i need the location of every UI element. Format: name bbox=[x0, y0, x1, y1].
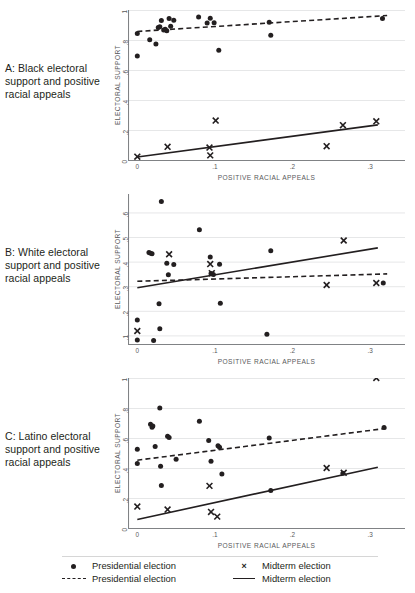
panel-b: B: White electoral support and positive … bbox=[0, 188, 415, 370]
legend-divider bbox=[62, 556, 378, 557]
y-tick-label: .2 bbox=[122, 498, 129, 503]
data-point-x bbox=[134, 504, 140, 510]
solid-line-icon bbox=[232, 572, 258, 585]
data-point-dot bbox=[174, 457, 179, 462]
x-tick-label: .2 bbox=[290, 163, 295, 170]
data-point-x bbox=[373, 280, 379, 286]
x-tick-label: .1 bbox=[212, 531, 217, 538]
y-tick-label: .2 bbox=[122, 130, 129, 135]
data-point-x bbox=[208, 509, 214, 515]
panel-b-plot: .1.2.3.4.5.60.1.2.3 bbox=[128, 194, 405, 344]
x-glyph: × bbox=[240, 562, 248, 570]
panel-a-plot: 0.2.4.6.810.1.2.3 bbox=[128, 10, 405, 160]
data-point-dot bbox=[147, 37, 152, 42]
data-point-x bbox=[341, 238, 347, 244]
data-point-dot bbox=[166, 272, 171, 277]
data-point-dot bbox=[197, 419, 202, 424]
x-tick-label: 0 bbox=[136, 163, 140, 170]
data-point-x bbox=[134, 328, 140, 334]
plot-canvas bbox=[128, 378, 405, 529]
y-tick-label: .6 bbox=[122, 212, 129, 217]
x-tick-label: .1 bbox=[212, 347, 217, 354]
panel-a-ylabel-wrap: ELECTORAL SUPPORT bbox=[112, 10, 124, 160]
data-point-x bbox=[165, 507, 171, 513]
data-point-x bbox=[214, 514, 220, 520]
data-point-dot bbox=[218, 301, 223, 306]
data-point-dot bbox=[264, 332, 269, 337]
y-tick-label: .8 bbox=[122, 40, 129, 45]
legend-label: Midterm election bbox=[262, 572, 331, 585]
y-tick-label: .5 bbox=[122, 237, 129, 242]
data-point-dot bbox=[219, 472, 224, 477]
legend-label: Presidential election bbox=[92, 572, 176, 585]
data-point-dot bbox=[164, 261, 169, 266]
data-point-x bbox=[213, 118, 219, 124]
data-point-x bbox=[373, 118, 379, 124]
dot-marker-icon bbox=[62, 559, 88, 572]
y-tick-label: .6 bbox=[122, 70, 129, 75]
x-tick-label: .3 bbox=[367, 163, 372, 170]
data-point-dot bbox=[267, 436, 272, 441]
y-tick-label: .2 bbox=[122, 311, 129, 316]
data-point-dot bbox=[135, 447, 140, 452]
data-point-dot bbox=[158, 464, 163, 469]
x-tick-label: .1 bbox=[212, 163, 217, 170]
data-point-dot bbox=[157, 326, 162, 331]
panel-c-caption: C: Latino electoral support and positive… bbox=[5, 430, 103, 470]
x-tick-label: .3 bbox=[367, 531, 372, 538]
panel-c: C: Latino electoral support and positive… bbox=[0, 372, 415, 554]
data-point-x bbox=[340, 122, 346, 128]
data-point-dot bbox=[381, 281, 386, 286]
y-tick-label: .4 bbox=[122, 468, 129, 473]
data-point-dot bbox=[135, 317, 140, 322]
legend-label: Presidential election bbox=[92, 559, 176, 572]
data-point-x bbox=[324, 143, 330, 149]
data-point-x bbox=[207, 483, 213, 489]
data-point-dot bbox=[205, 21, 210, 26]
data-point-dot bbox=[135, 338, 140, 343]
y-tick-label: .8 bbox=[122, 408, 129, 413]
trend-line-dashed bbox=[137, 274, 387, 281]
data-point-dot bbox=[196, 15, 201, 20]
data-point-dot bbox=[150, 251, 155, 256]
legend-label: Midterm election bbox=[262, 559, 331, 572]
y-tick-label: .4 bbox=[122, 262, 129, 267]
data-point-dot bbox=[268, 248, 273, 253]
y-tick-label: 0 bbox=[122, 528, 129, 532]
panel-b-xlabel: POSITIVE RACIAL APPEALS bbox=[128, 358, 405, 365]
data-point-dot bbox=[157, 24, 162, 29]
data-point-dot bbox=[212, 20, 217, 25]
data-point-dot bbox=[135, 461, 140, 466]
plot-canvas bbox=[128, 10, 405, 161]
data-point-dot bbox=[159, 18, 164, 23]
x-marker-icon: × bbox=[232, 559, 258, 572]
panel-c-xlabel: POSITIVE RACIAL APPEALS bbox=[128, 542, 405, 549]
y-tick-label: .4 bbox=[122, 100, 129, 105]
data-point-x bbox=[165, 144, 171, 150]
trend-line-dashed bbox=[137, 428, 387, 460]
panel-a-ylabel: ELECTORAL SUPPORT bbox=[112, 10, 124, 160]
data-point-x bbox=[207, 152, 213, 158]
data-point-dot bbox=[206, 438, 211, 443]
trend-line-solid bbox=[137, 125, 378, 157]
data-point-dot bbox=[157, 406, 162, 411]
data-point-dot bbox=[268, 33, 273, 38]
data-point-dot bbox=[208, 254, 213, 259]
x-tick-label: 0 bbox=[136, 531, 140, 538]
data-point-dot bbox=[135, 54, 140, 59]
data-point-dot bbox=[197, 227, 202, 232]
data-point-dot bbox=[157, 301, 162, 306]
y-tick-label: .3 bbox=[122, 286, 129, 291]
data-point-dot bbox=[153, 444, 158, 449]
data-point-dot bbox=[167, 435, 172, 440]
trend-line-solid bbox=[137, 248, 378, 288]
data-point-dot bbox=[171, 18, 176, 23]
x-tick-label: .2 bbox=[290, 347, 295, 354]
panel-c-ylabel: ELECTORAL SUPPORT bbox=[112, 378, 124, 528]
data-point-dot bbox=[209, 459, 214, 464]
data-point-dot bbox=[167, 16, 172, 21]
panel-c-plot: 0.2.4.6.810.1.2.3 bbox=[128, 378, 405, 528]
data-point-dot bbox=[168, 24, 173, 29]
dashed-line-icon bbox=[62, 572, 88, 585]
x-tick-label: 0 bbox=[136, 347, 140, 354]
